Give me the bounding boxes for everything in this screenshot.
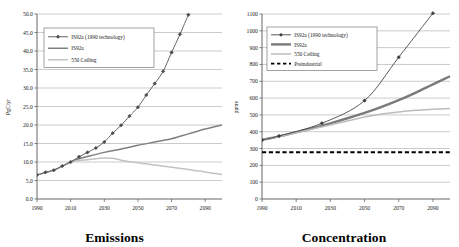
y-tick-label: 50.0 [23,11,33,17]
series-line-is92a [37,125,222,175]
legend-label: IS92a [71,45,84,51]
legend-label: 550 Ceiling [294,51,320,57]
y-tick-label: 0.0 [26,196,33,202]
legend-label: Preindustrial [294,61,322,67]
x-tick-label: 2030 [325,205,336,211]
y-tick-label: 1000 [247,28,258,34]
data-point-marker [187,13,191,17]
concentration-plot: 0100200300400500600700800900100011001990… [229,0,459,247]
y-tick-label: 200 [249,162,258,168]
y-tick-label: 500 [249,112,258,118]
y-tick-label: 0 [255,196,258,202]
data-point-marker [35,173,39,177]
x-tick-label: 2090 [427,205,438,211]
series-line-550-ceiling [262,109,450,140]
y-tick-label: 30.0 [23,85,33,91]
legend: IS92a (1990 technology)IS92a550 CeilingP… [267,27,377,70]
concentration-panel-title: Concentration [229,230,459,246]
y-tick-label: 35.0 [23,67,33,73]
x-tick-label: 2070 [393,205,404,211]
legend: IS92a (1990 technology)IS92a550 Ceiling [44,28,154,68]
x-tick-label: 2050 [132,205,143,211]
y-tick-label: 100 [249,179,258,185]
x-tick-label: 2010 [65,205,76,211]
y-tick-label: 20.0 [23,122,33,128]
y-tick-label: 15.0 [23,141,33,147]
x-tick-label: 2070 [166,205,177,211]
y-tick-label: 600 [249,95,258,101]
emissions-y-axis-label: PgC/yr [5,92,11,122]
legend-label: 550 Ceiling [71,57,97,63]
x-tick-label: 1990 [256,205,267,211]
series-line-is92a [262,76,450,140]
y-tick-label: 900 [249,45,258,51]
data-point-marker [178,33,182,37]
x-tick-label: 2050 [359,205,370,211]
data-point-marker [161,70,165,74]
legend-label: IS92a [294,42,307,48]
y-tick-label: 700 [249,78,258,84]
emissions-panel-title: Emissions [0,230,229,246]
y-tick-label: 400 [249,129,258,135]
x-tick-label: 2010 [291,205,302,211]
legend-label: IS92a (1990 technology) [71,34,125,41]
y-tick-label: 300 [249,146,258,152]
concentration-y-axis-label: ppmv [233,92,239,122]
y-tick-label: 40.0 [23,48,33,54]
panel-concentration: 0100200300400500600700800900100011001990… [229,0,459,247]
y-tick-label: 1100 [247,11,258,17]
y-tick-label: 45.0 [23,30,33,36]
x-tick-label: 2090 [200,205,211,211]
y-tick-label: 800 [249,61,258,67]
x-tick-label: 2030 [99,205,110,211]
series-line-550-ceiling [37,158,222,175]
panel-emissions: 0.05.010.015.020.025.030.035.040.045.050… [0,0,229,247]
figure-two-panel-chart: 0.05.010.015.020.025.030.035.040.045.050… [0,0,459,247]
x-tick-label: 1990 [31,205,42,211]
emissions-plot: 0.05.010.015.020.025.030.035.040.045.050… [0,0,229,247]
y-tick-label: 5.0 [26,178,33,184]
y-tick-label: 25.0 [23,104,33,110]
legend-label: IS92a (1990 technology) [294,32,348,39]
data-point-marker [86,151,90,155]
y-tick-label: 10.0 [23,159,33,165]
